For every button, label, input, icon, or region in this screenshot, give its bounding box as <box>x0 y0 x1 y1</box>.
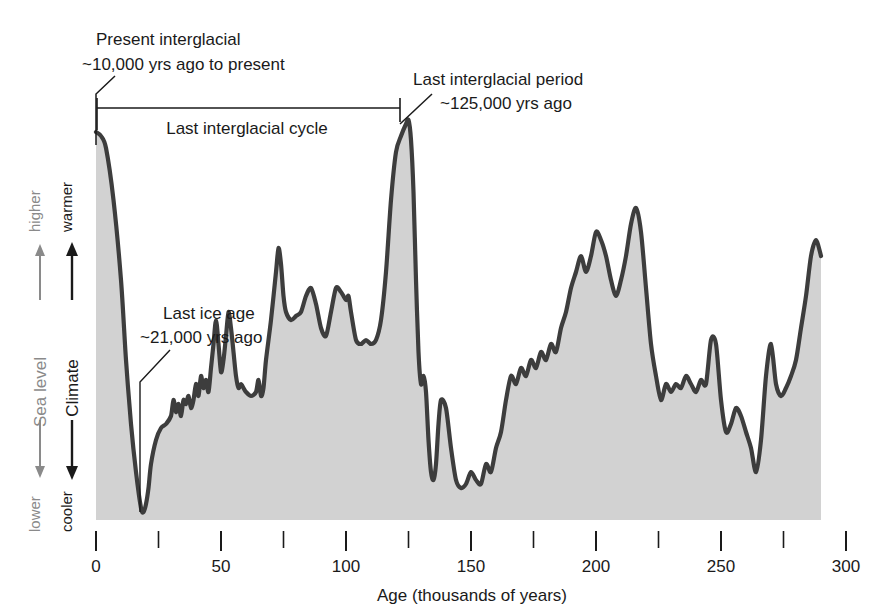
chart-background <box>0 0 884 616</box>
x-axis-tick-label: 250 <box>707 557 735 576</box>
last-interglacial-period-line1: Last interglacial period <box>413 70 583 89</box>
x-axis-title: Age (thousands of years) <box>377 586 567 605</box>
x-axis-tick-label: 100 <box>332 557 360 576</box>
last-interglacial-cycle-label: Last interglacial cycle <box>166 119 328 138</box>
present-interglacial-line1: Present interglacial <box>96 30 241 49</box>
climate-warmer-label: warmer <box>58 182 75 233</box>
x-axis-tick-label: 150 <box>457 557 485 576</box>
sea-level-title: Sea level <box>31 357 50 427</box>
sea-level-climate-chart: 050100150200250300 Age (thousands of yea… <box>0 0 884 616</box>
present-interglacial-line2: ~10,000 yrs ago to present <box>82 55 285 74</box>
x-axis-tick-label: 300 <box>832 557 860 576</box>
climate-cooler-label: cooler <box>58 491 75 532</box>
sea-level-lower-label: lower <box>26 496 43 532</box>
sea-level-higher-label: higher <box>26 190 43 232</box>
climate-title: Climate <box>63 359 82 417</box>
x-axis-tick-label: 0 <box>91 557 100 576</box>
last-interglacial-period-line2: ~125,000 yrs ago <box>440 94 572 113</box>
last-ice-age-line1: Last ice age <box>163 304 255 323</box>
x-axis-tick-label: 50 <box>212 557 231 576</box>
x-axis-tick-label: 200 <box>582 557 610 576</box>
last-ice-age-line2: ~21,000 yrs ago <box>140 328 262 347</box>
